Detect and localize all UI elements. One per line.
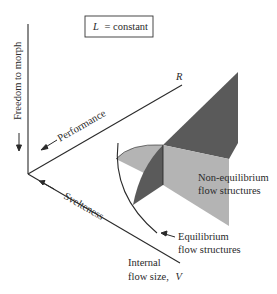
- non-equilibrium-label-line1: Non-equilibrium: [198, 172, 269, 183]
- constraint-text: = constant: [104, 21, 148, 32]
- non-equilibrium-dark-surface: [163, 72, 238, 159]
- svg-text:L = constant: L = constant: [92, 21, 148, 32]
- equilibrium-arrow-icon: [161, 231, 175, 237]
- constraint-box: L = constant: [85, 16, 153, 37]
- size-axis-label: Internal: [128, 257, 161, 268]
- svelteness-axis-label: Svelteness: [62, 190, 106, 222]
- non-equilibrium-label-line2: flow structures: [198, 185, 261, 196]
- svelteness-arrow-icon: [40, 181, 55, 190]
- constraint-variable: L: [92, 21, 99, 32]
- performance-arrow-icon: [41, 140, 57, 150]
- flow-surfaces: [116, 72, 238, 226]
- equilibrium-label-line2: flow structures: [178, 244, 241, 255]
- performance-end-label: R: [175, 71, 183, 82]
- freedom-axis-label: Freedom to morph: [12, 41, 23, 120]
- size-axis-label-line2: flow size, V: [128, 271, 183, 282]
- freedom-arrow-icon: [17, 133, 22, 151]
- equilibrium-label-line1: Equilibrium: [178, 231, 229, 242]
- performance-axis-label: Performance: [56, 107, 108, 144]
- morphing-flow-diagram: L = constant Freedom to morph Performanc…: [0, 0, 277, 294]
